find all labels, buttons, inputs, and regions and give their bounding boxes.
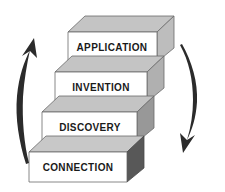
step-application[interactable]: APPLICATION [68,16,174,62]
step-application-label: APPLICATION [77,42,148,53]
descending-arrow-shaft [180,44,197,140]
step-invention-label: INVENTION [72,82,130,93]
step-discovery-top-face [42,96,154,112]
step-application-top-face [68,16,174,32]
step-connection-top-face [29,136,144,152]
descending-arrow [180,44,197,153]
step-invention[interactable]: INVENTION [55,56,164,102]
descending-arrow-head [180,133,195,153]
step-connection-label: CONNECTION [43,162,114,173]
ascending-arrow-shaft [16,50,30,164]
step-connection[interactable]: CONNECTION [29,136,144,182]
step-invention-top-face [55,56,164,72]
step-discovery[interactable]: DISCOVERY [42,96,154,142]
step-discovery-label: DISCOVERY [59,122,121,133]
ascending-arrow-head [22,38,37,58]
ascending-arrow [16,38,37,164]
staircase-diagram: APPLICATION INVENTION DISCOVERY CONNECTI… [0,0,225,192]
diagram-canvas: APPLICATION INVENTION DISCOVERY CONNECTI… [0,0,225,192]
